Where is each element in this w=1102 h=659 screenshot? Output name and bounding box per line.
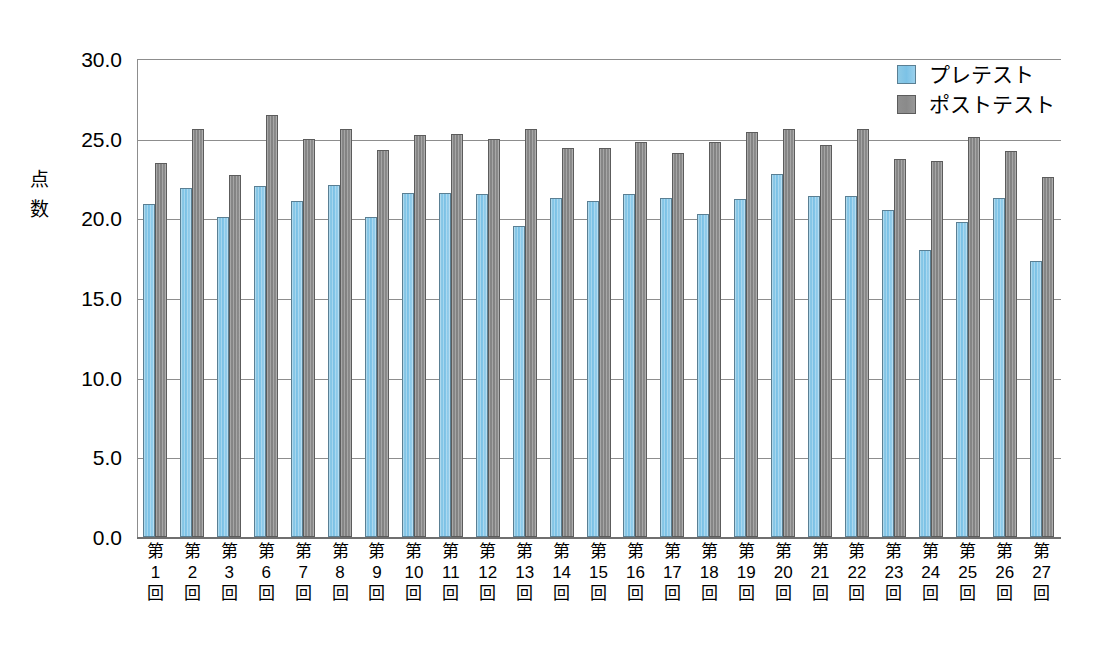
x-tick-number: 18 [700, 562, 719, 583]
bar-pretest[interactable] [402, 193, 414, 537]
bar-pretest[interactable] [623, 194, 635, 537]
bar-pretest[interactable] [919, 250, 931, 537]
bar-pretest[interactable] [217, 217, 229, 537]
bar-pretest[interactable] [291, 201, 303, 537]
bar-posttest[interactable] [599, 148, 611, 537]
x-tick-number: 9 [372, 562, 381, 583]
legend-item-pretest[interactable]: プレテスト [897, 59, 1055, 89]
bar-posttest[interactable] [1005, 151, 1017, 537]
x-tick-prefix: 第 [1033, 541, 1050, 562]
bar-posttest[interactable] [1042, 177, 1054, 537]
y-axis-tick-label: 5.0 [93, 447, 122, 468]
x-tick-suffix: 回 [922, 583, 939, 604]
bar-pretest[interactable] [734, 199, 746, 537]
x-tick-number: 3 [225, 562, 234, 583]
bar-posttest[interactable] [192, 129, 204, 537]
bar-posttest[interactable] [155, 163, 167, 537]
x-tick-suffix: 回 [258, 583, 275, 604]
bar-pretest[interactable] [328, 185, 340, 537]
x-tick-prefix: 第 [553, 541, 570, 562]
bar-pretest[interactable] [697, 214, 709, 537]
y-axis-title: 点 数 [22, 165, 56, 225]
bar-pretest[interactable] [143, 204, 155, 537]
bar-pretest[interactable] [882, 210, 894, 537]
legend-swatch-posttest [897, 95, 916, 114]
bar-posttest[interactable] [783, 129, 795, 537]
bar-posttest[interactable] [968, 137, 980, 537]
bar-pretest[interactable] [439, 193, 451, 537]
bar-posttest[interactable] [377, 150, 389, 537]
x-axis-tick-label: 第7回 [285, 541, 322, 641]
x-tick-suffix: 回 [184, 583, 201, 604]
bar-posttest[interactable] [229, 175, 241, 537]
x-tick-suffix: 回 [368, 583, 385, 604]
x-tick-prefix: 第 [405, 541, 422, 562]
bar-pretest[interactable] [254, 186, 266, 537]
bar-posttest[interactable] [303, 139, 315, 537]
x-tick-prefix: 第 [479, 541, 496, 562]
x-axis-tick-label: 第25回 [949, 541, 986, 641]
bar-posttest[interactable] [562, 148, 574, 537]
x-tick-number: 17 [663, 562, 682, 583]
x-tick-number: 25 [958, 562, 977, 583]
x-axis-tick-label: 第10回 [395, 541, 432, 641]
x-tick-suffix: 回 [664, 583, 681, 604]
bar-pretest[interactable] [550, 198, 562, 537]
bar-posttest[interactable] [672, 153, 684, 537]
bars-layer [137, 59, 1060, 537]
bar-posttest[interactable] [488, 139, 500, 537]
bar-posttest[interactable] [746, 132, 758, 537]
bar-pretest[interactable] [845, 196, 857, 537]
bar-pretest[interactable] [771, 174, 783, 537]
bar-pretest[interactable] [513, 226, 525, 537]
x-tick-prefix: 第 [627, 541, 644, 562]
legend: プレテスト ポストテスト [893, 57, 1059, 123]
bar-pretest[interactable] [476, 194, 488, 537]
bar-pretest[interactable] [365, 217, 377, 537]
x-tick-prefix: 第 [147, 541, 164, 562]
x-tick-number: 7 [298, 562, 307, 583]
x-tick-number: 16 [626, 562, 645, 583]
x-tick-suffix: 回 [405, 583, 422, 604]
bar-posttest[interactable] [709, 142, 721, 537]
bar-posttest[interactable] [340, 129, 352, 537]
y-axis-tick-label: 0.0 [93, 527, 122, 548]
bar-posttest[interactable] [820, 145, 832, 537]
legend-label-pretest: プレテスト [929, 64, 1034, 85]
x-tick-prefix: 第 [258, 541, 275, 562]
x-tick-prefix: 第 [812, 541, 829, 562]
bar-posttest[interactable] [414, 135, 426, 537]
bar-posttest[interactable] [931, 161, 943, 537]
bar-pretest[interactable] [587, 201, 599, 537]
x-tick-number: 14 [552, 562, 571, 583]
bar-posttest[interactable] [525, 129, 537, 537]
bar-pretest[interactable] [993, 198, 1005, 537]
bar-posttest[interactable] [857, 129, 869, 537]
x-axis-tick-label: 第2回 [174, 541, 211, 641]
x-axis-tick-label: 第14回 [543, 541, 580, 641]
bar-pretest[interactable] [660, 198, 672, 537]
y-axis-tick-label: 30.0 [81, 49, 122, 70]
x-tick-prefix: 第 [922, 541, 939, 562]
x-tick-number: 10 [404, 562, 423, 583]
legend-item-posttest[interactable]: ポストテスト [897, 89, 1055, 119]
bar-group [432, 59, 469, 537]
bar-pretest[interactable] [180, 188, 192, 537]
bar-posttest[interactable] [451, 134, 463, 537]
x-axis-tick-label: 第1回 [137, 541, 174, 641]
x-tick-suffix: 回 [147, 583, 164, 604]
bar-posttest[interactable] [894, 159, 906, 537]
bar-group [986, 59, 1023, 537]
bar-posttest[interactable] [635, 142, 647, 537]
bar-pretest[interactable] [956, 222, 968, 537]
bar-group [506, 59, 543, 537]
bar-posttest[interactable] [266, 115, 278, 537]
x-tick-number: 21 [811, 562, 830, 583]
x-axis-tick-label: 第17回 [654, 541, 691, 641]
bar-pretest[interactable] [1030, 261, 1042, 537]
bar-group [469, 59, 506, 537]
y-axis-tick-label: 25.0 [81, 129, 122, 150]
y-axis-tick-labels: 30.025.020.015.010.05.00.0 [58, 40, 130, 550]
x-axis-tick-label: 第11回 [432, 541, 469, 641]
bar-pretest[interactable] [808, 196, 820, 537]
